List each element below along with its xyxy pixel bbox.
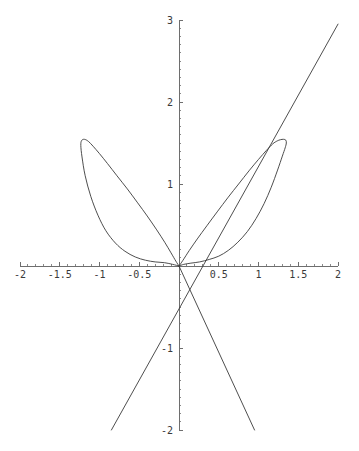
curve-left-loop [81, 139, 179, 266]
y-tick-label: 1 [167, 179, 173, 190]
x-tick-label: -2 [14, 269, 26, 280]
x-tick-label: 1 [255, 269, 261, 280]
y-tick-label: 3 [167, 15, 173, 26]
x-tick-label: 2 [335, 269, 341, 280]
plot-curves [81, 24, 338, 430]
x-tick-label: 0.5 [210, 269, 228, 280]
y-tick-label: -2 [161, 425, 173, 436]
axes [20, 20, 338, 430]
x-tick-label: 1.5 [289, 269, 307, 280]
curve-right-loop [179, 139, 286, 266]
x-tick-label: -1.5 [48, 269, 72, 280]
plot-canvas: -2-1.5-1-0.50.511.52321-1-2 [0, 0, 359, 451]
curve-tangent-line-rising [111, 24, 338, 430]
y-tick-label: 2 [167, 97, 173, 108]
plot-figure: -2-1.5-1-0.50.511.52321-1-2 [0, 0, 359, 451]
y-tick-label: -1 [161, 343, 173, 354]
curve-tangent-line-falling [179, 266, 255, 430]
x-tick-label: -0.5 [127, 269, 151, 280]
tick-labels: -2-1.5-1-0.50.511.52321-1-2 [14, 15, 341, 436]
x-tick-label: -1 [93, 269, 105, 280]
